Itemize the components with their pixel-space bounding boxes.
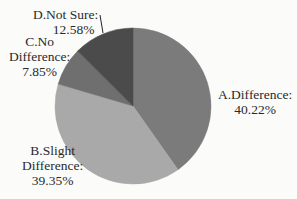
label-c: C.No Difference: 7.85% [9, 34, 70, 79]
pie-chart: A.Difference: 40.22% B.Slight Difference… [0, 0, 297, 199]
label-a: A.Difference: 40.22% [218, 87, 292, 117]
label-b-name-1: B.Slight [22, 143, 83, 158]
label-d: D.Not Sure: 12.58% [33, 7, 98, 37]
label-a-value: 40.22% [218, 102, 292, 117]
label-b: B.Slight Difference: 39.35% [22, 143, 83, 188]
label-b-name-2: Difference: [22, 158, 83, 173]
label-a-name: A.Difference: [218, 87, 292, 102]
label-c-name-2: Difference: [9, 49, 70, 64]
label-d-name: D.Not Sure: [33, 7, 98, 22]
label-c-value: 7.85% [9, 64, 70, 79]
label-d-value: 12.58% [49, 22, 98, 37]
label-b-value: 39.35% [22, 173, 83, 188]
leader-line-d [100, 15, 103, 33]
